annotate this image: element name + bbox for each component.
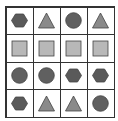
circle-icon [92, 95, 109, 112]
grid-cell [87, 62, 115, 91]
grid-cell [33, 7, 61, 36]
square-icon [92, 40, 109, 57]
grid-cell [60, 89, 88, 118]
square-icon [65, 40, 82, 57]
hexagon-icon [92, 67, 109, 84]
triangle-icon [92, 12, 109, 29]
grid-cell [33, 34, 61, 63]
circle-icon [38, 67, 55, 84]
shape-grid [5, 6, 115, 118]
grid-cell [33, 89, 61, 118]
grid-cell [60, 7, 88, 36]
square-icon [38, 40, 55, 57]
grid-cell [87, 34, 115, 63]
square-icon [11, 40, 28, 57]
grid-cell [60, 62, 88, 91]
circle-icon [65, 12, 82, 29]
circle-icon [11, 67, 28, 84]
hexagon-icon [65, 67, 82, 84]
hexagon-icon [11, 95, 28, 112]
hexagon-icon [11, 12, 28, 29]
triangle-icon [38, 95, 55, 112]
grid-cell [87, 89, 115, 118]
grid-cell [6, 62, 34, 91]
grid-cell [60, 34, 88, 63]
grid-cell [6, 34, 34, 63]
grid-cell [33, 62, 61, 91]
grid-cell [6, 7, 34, 36]
grid-cell [87, 7, 115, 36]
triangle-icon [38, 12, 55, 29]
triangle-icon [65, 95, 82, 112]
grid-cell [6, 89, 34, 118]
